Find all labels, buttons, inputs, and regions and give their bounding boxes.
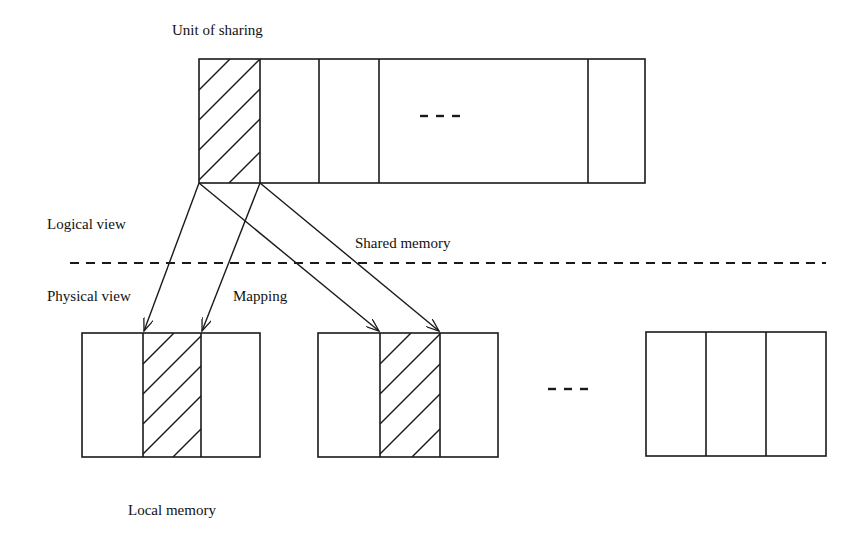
diagram-canvas: Unit of sharing Logical view Shared memo… <box>0 0 864 539</box>
mapping-label: Mapping <box>233 288 287 305</box>
local-memory-block-2 <box>318 333 498 457</box>
local-memory-block-1 <box>82 333 260 457</box>
shared-memory-label: Shared memory <box>355 235 450 252</box>
shared-memory-block <box>199 59 645 183</box>
logical-view-label: Logical view <box>47 216 126 233</box>
local-memory-block-3 <box>646 332 826 456</box>
unit-of-sharing-label: Unit of sharing <box>172 22 263 39</box>
mapping-arrows <box>144 183 439 331</box>
diagram-graphics <box>0 0 864 539</box>
hatched-unit-top <box>199 59 260 183</box>
local-memory-label: Local memory <box>128 502 216 519</box>
physical-view-label: Physical view <box>47 288 131 305</box>
